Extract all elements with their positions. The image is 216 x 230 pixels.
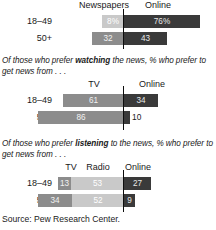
bar-value-label: 86 <box>38 111 124 124</box>
bar-value-label: 9 <box>124 194 135 207</box>
bar-value-label: 52 <box>72 194 124 207</box>
caption-emphasis: listening <box>75 139 108 148</box>
column-header-online: Online <box>139 79 165 89</box>
bar-segment-online: 9 <box>124 194 135 207</box>
bar-value-label: 32 <box>92 32 124 45</box>
bar-segment-newspapers: 8% <box>102 15 124 28</box>
column-header-online: Online <box>145 0 171 10</box>
column-header-tv: TV <box>88 79 100 89</box>
caption-emphasis: watching <box>75 56 110 65</box>
column-headers-watching: TV Online <box>0 79 216 92</box>
bar-segment-tv: 13 <box>58 177 71 190</box>
bar-value-label: 53 <box>71 177 124 190</box>
source-note: Source: Pew Research Center. <box>2 214 120 224</box>
column-header-tv: TV <box>65 162 77 172</box>
panel-overall: Newspapers Online 18–49 8% 76% 50+ 32 43 <box>0 0 216 46</box>
bar-segment-online: 43 <box>124 32 167 45</box>
panel-watching: Of those who prefer watching the news, %… <box>0 56 216 125</box>
column-headers-listening: TV Radio Online <box>0 162 216 175</box>
caption-part: Of those who prefer <box>2 139 75 148</box>
row-label-18-49: 18–49 <box>0 14 52 29</box>
row-label-50-plus: 50+ <box>0 31 52 46</box>
row-label-18-49: 18–49 <box>0 176 52 191</box>
table-row: 50+ 32 43 <box>0 31 216 46</box>
bar-segment-tv: 86 <box>38 111 124 124</box>
bar-segment-radio: 52 <box>72 194 124 207</box>
bar-value-label: 43 <box>124 32 167 45</box>
bar-segment-newspapers: 32 <box>92 32 124 45</box>
bar-segment-online: 27 <box>124 177 151 190</box>
caption-watching: Of those who prefer watching the news, %… <box>0 56 216 77</box>
table-row: 18–49 61 34 <box>0 93 216 108</box>
table-row: 18–49 8% 76% <box>0 14 216 29</box>
center-divider-line <box>123 9 124 49</box>
bar-value-label: 34 <box>124 94 158 107</box>
column-headers-overall: Newspapers Online <box>0 0 216 13</box>
table-row: 50+ 34 52 9 <box>0 193 216 208</box>
bar-value-label: 8% <box>102 15 124 28</box>
column-header-online: Online <box>125 162 151 172</box>
bar-segment-radio: 53 <box>71 177 124 190</box>
table-row: 18–49 13 53 27 <box>0 176 216 191</box>
column-header-newspapers: Newspapers <box>79 0 129 10</box>
bar-segment-online: 34 <box>124 94 158 107</box>
bar-value-label: 13 <box>58 177 71 190</box>
row-label-18-49: 18–49 <box>0 93 52 108</box>
bar-value-label: 61 <box>63 94 124 107</box>
caption-part: Of those who prefer <box>2 56 75 65</box>
bar-value-label-online-outside: 10 <box>132 110 141 125</box>
bar-segment-online <box>124 111 130 124</box>
center-divider-line <box>123 170 124 212</box>
bar-segment-tv: 61 <box>63 94 124 107</box>
bar-segment-tv: 34 <box>38 194 72 207</box>
bar-value-label: 34 <box>38 194 72 207</box>
bar-segment-online: 76% <box>124 15 200 28</box>
caption-listening: Of those who prefer listening to the new… <box>0 139 216 160</box>
column-header-radio: Radio <box>86 162 110 172</box>
bar-value-label: 27 <box>124 177 151 190</box>
bar-value-label: 76% <box>124 15 200 28</box>
table-row: 50+ 86 10 <box>0 110 216 125</box>
pew-news-preference-figure: Newspapers Online 18–49 8% 76% 50+ 32 43 <box>0 0 216 230</box>
center-divider-line <box>123 86 124 130</box>
panel-listening: Of those who prefer listening to the new… <box>0 139 216 208</box>
